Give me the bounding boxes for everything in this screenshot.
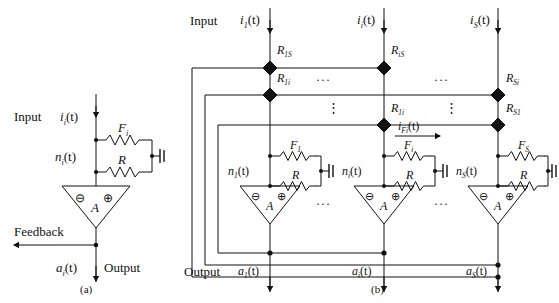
panel-a-node-label: ni(t) — [55, 150, 76, 167]
coupling-resistor-1S: R1S — [277, 44, 292, 59]
panel-a-resistor-f-label: Fi — [118, 121, 128, 138]
panel-b-amp-plus-1: ⊕ — [277, 191, 286, 202]
panel-b-amp-label-S: A — [494, 200, 501, 212]
panel-b-input-current-i: ii(t) — [357, 13, 375, 30]
panel-b-amp-label-i: A — [380, 200, 387, 212]
panel-b-resistor-f-S: FS — [518, 139, 529, 154]
panel-b-node-S: nS(t) — [456, 165, 477, 180]
panel-b-node-1: n1(t) — [228, 165, 249, 180]
panel-b-amp-minus-i: ⊖ — [365, 191, 374, 202]
panel-a-input-label: Input — [14, 110, 41, 123]
panel-b-output-signal-S: aS(t) — [466, 265, 487, 280]
panel-b-resistor-r-1: R — [292, 169, 299, 181]
hdots-amp-right: ··· — [434, 198, 449, 210]
panel-b-amp-minus-1: ⊖ — [251, 191, 260, 202]
panel-a-amp-label: A — [91, 201, 99, 214]
panel-b-amp-plus-S: ⊕ — [505, 191, 514, 202]
panel-b-input-current-S: iS(t) — [470, 13, 490, 30]
panel-b-node-i: ni(t) — [342, 165, 361, 180]
panel-a-output-signal-label: ai(t) — [56, 261, 77, 278]
coupling-resistor-iS: RiS — [391, 44, 404, 59]
panel-a-input-current-label: ii(t) — [60, 110, 78, 127]
panel-a-feedback-label: Feedback — [14, 225, 64, 238]
feedback-current-label: iFi(t) — [398, 120, 419, 135]
panel-a-amp-plus-icon: ⊕ — [103, 192, 113, 204]
panel-b-amp-plus-i: ⊕ — [391, 191, 400, 202]
panel-b-output-signal-1: a1(t) — [238, 265, 259, 280]
panel-b-amp-minus-S: ⊖ — [479, 191, 488, 202]
coupling-resistor-1i-b: R1i — [391, 102, 404, 117]
coupling-resistor-1i: R1i — [277, 72, 290, 87]
panel-b-resistor-r-i: R — [406, 169, 413, 181]
hdots-left: ··· — [316, 74, 331, 86]
panel-b-resistor-f-i: Fi — [404, 139, 413, 154]
panel-a-caption: (a) — [80, 284, 92, 295]
panel-b-resistor-r-S: R — [520, 169, 527, 181]
panel-b-resistor-f-1: F1 — [290, 139, 301, 154]
hdots-right: ··· — [434, 74, 449, 86]
vdots-left: ⋮ — [327, 101, 340, 114]
hdots-amp-left: ··· — [316, 198, 331, 210]
panel-b-output-label: Output — [184, 265, 220, 278]
panel-a-amp-minus-icon: ⊖ — [75, 192, 85, 204]
panel-a-resistor-r-label: R — [118, 153, 126, 166]
panel-b-amp-label-1: A — [266, 200, 273, 212]
figure-container: Input ii(t) ni(t) Fi R ⊖ ⊕ A Feedback ai… — [0, 0, 559, 303]
vdots-right: ⋮ — [445, 101, 458, 114]
coupling-resistor-S1: RS1 — [506, 102, 521, 117]
panel-b-caption: (b) — [371, 284, 384, 295]
panel-b-input-label: Input — [190, 14, 217, 27]
panel-b-output-signal-i: ai(t) — [352, 265, 371, 280]
coupling-resistor-Si: RSi — [506, 72, 519, 87]
panel-b-input-current-1: i1(t) — [240, 13, 260, 30]
panel-a-output-label: Output — [104, 261, 140, 274]
